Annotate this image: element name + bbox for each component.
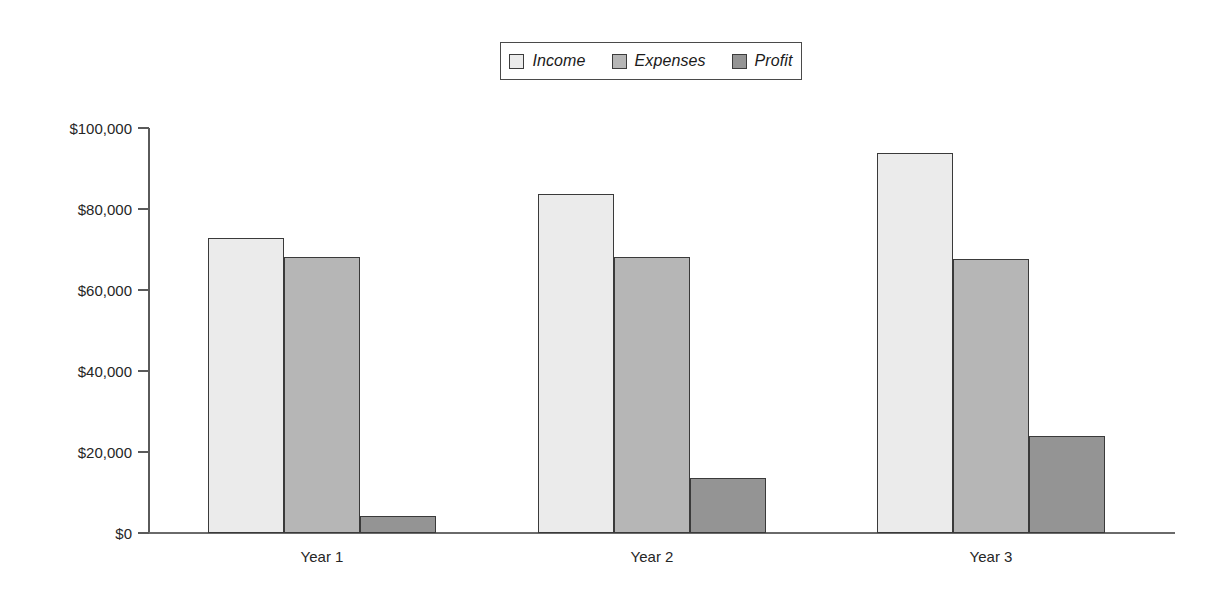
bar-expenses-year-3 [953, 259, 1029, 533]
x-axis-label-year-1: Year 1 [301, 548, 344, 565]
bar-chart: Income Expenses Profit $0$20,000$40,000$… [0, 0, 1220, 601]
x-axis-label-year-3: Year 3 [970, 548, 1013, 565]
bar-income-year-1 [208, 238, 284, 533]
bar-expenses-year-2 [614, 257, 690, 533]
bar-income-year-2 [538, 194, 614, 533]
bar-expenses-year-1 [284, 257, 360, 533]
bar-income-year-3 [877, 153, 953, 533]
x-axis-label-year-2: Year 2 [631, 548, 674, 565]
bar-profit-year-1 [360, 516, 436, 533]
bars-layer [0, 0, 1220, 533]
bar-profit-year-3 [1029, 436, 1105, 533]
plot-area: $0$20,000$40,000$60,000$80,000$100,000 Y… [0, 0, 1220, 601]
bar-profit-year-2 [690, 478, 766, 533]
